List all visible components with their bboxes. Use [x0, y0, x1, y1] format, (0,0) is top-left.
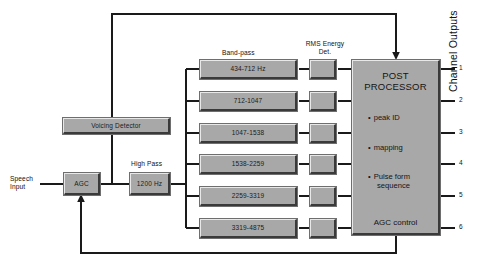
rms-energy-detector-1[interactable]: [310, 60, 336, 79]
arrowhead-into-postprocessor: [392, 52, 400, 60]
channel-output-number-3: 3: [459, 128, 463, 135]
rms-energy-detector-4[interactable]: [310, 155, 336, 174]
bullet-dot-icon: •: [368, 143, 371, 152]
rms-energy-detector-2[interactable]: [310, 92, 336, 111]
channel-output-number-1: 1: [459, 64, 463, 71]
band-pass-filter-1[interactable]: 434-712 Hz: [200, 60, 297, 79]
band-pass-filter-3-label: 1047-1538: [232, 129, 264, 136]
agc-block-label: AGC: [74, 180, 89, 187]
post-processor-feature-3-label: Pulse form: [374, 172, 410, 181]
agc-block[interactable]: AGC: [64, 173, 100, 195]
post-processor-feature-2: •mapping: [368, 135, 410, 152]
block-diagram: Speech Input High Pass Band-pass RMS Ene…: [0, 0, 485, 268]
channel-output-number-4: 4: [459, 159, 463, 166]
channel-output-number-2: 2: [459, 96, 463, 103]
post-processor-feature-3: •Pulse formsequence: [368, 164, 410, 199]
band-pass-filter-3[interactable]: 1047-1538: [200, 124, 297, 143]
channel-output-number-5: 5: [459, 191, 463, 198]
band-pass-filter-5-label: 2259-3319: [232, 192, 264, 199]
speech-input-label: Speech Input: [10, 175, 33, 191]
band-pass-filter-2[interactable]: 712-1047: [200, 92, 297, 111]
post-processor-feature-1-label: peak ID: [374, 113, 400, 122]
arrowhead-into-agc: [77, 194, 85, 202]
bullet-dot-icon: •: [368, 172, 371, 181]
channel-outputs-label: Channel Outputs: [447, 0, 459, 92]
post-processor-feature-3-continuation: sequence: [368, 182, 410, 191]
high-pass-group-label: High Pass: [131, 160, 162, 168]
post-processor-feature-list: •peak ID •mapping •Pulse formsequence: [357, 105, 410, 211]
rms-energy-detector-6[interactable]: [310, 219, 336, 238]
voicing-detector-block[interactable]: Voicing Detector: [63, 118, 170, 134]
band-pass-filter-6[interactable]: 3319-4875: [200, 219, 297, 238]
rms-energy-detector-3[interactable]: [310, 124, 336, 143]
post-processor-agc-control-label: AGC control: [357, 218, 434, 227]
band-pass-filter-2-label: 712-1047: [234, 97, 263, 104]
rms-energy-detector-group-label: RMS Energy Det.: [304, 40, 346, 55]
post-processor-block[interactable]: POST PROCESSOR •peak ID •mapping •Pulse …: [352, 60, 440, 235]
high-pass-block-label: 1200 Hz: [137, 180, 162, 187]
post-processor-feature-2-label: mapping: [374, 143, 403, 152]
post-processor-title: POST PROCESSOR: [357, 70, 434, 92]
high-pass-block[interactable]: 1200 Hz: [130, 173, 170, 195]
band-pass-filter-5[interactable]: 2259-3319: [200, 187, 297, 206]
channel-output-number-6: 6: [459, 223, 463, 230]
voicing-detector-block-label: Voicing Detector: [91, 122, 141, 129]
band-pass-filter-4-label: 1538-2259: [232, 160, 264, 167]
post-processor-feature-1: •peak ID: [368, 105, 410, 122]
band-pass-filter-4[interactable]: 1538-2259: [200, 155, 297, 174]
rms-energy-detector-5[interactable]: [310, 187, 336, 206]
band-pass-filter-1-label: 434-712 Hz: [230, 65, 265, 72]
band-pass-group-label: Band-pass: [222, 49, 255, 57]
band-pass-filter-6-label: 3319-4875: [232, 224, 264, 231]
bullet-dot-icon: •: [368, 113, 371, 122]
